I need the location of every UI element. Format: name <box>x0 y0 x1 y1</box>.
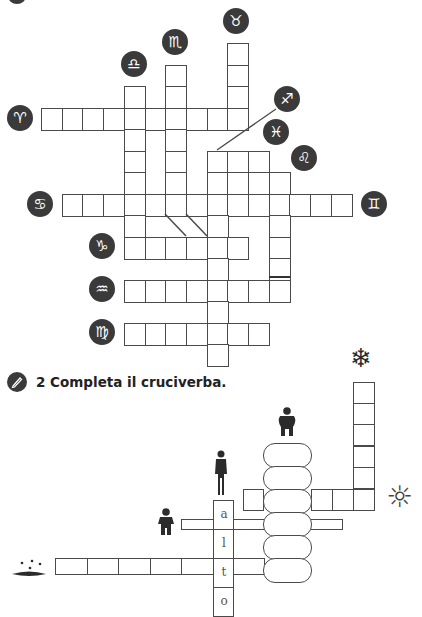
cw2-thin-cell[interactable] <box>233 519 265 530</box>
snowflake-icon: ❄ <box>350 345 372 371</box>
cw2-round-cell[interactable] <box>263 512 312 537</box>
cw2-letter: o <box>214 594 234 608</box>
thick-divider <box>269 276 290 278</box>
cw2-letter: l <box>214 536 234 550</box>
cw2-cell[interactable] <box>233 558 265 575</box>
cw2-cell[interactable] <box>243 489 264 511</box>
cw2-cell[interactable] <box>353 382 375 404</box>
cw2-cell[interactable] <box>353 446 375 468</box>
cw2-round-cell[interactable] <box>263 489 312 514</box>
cw2-letter: t <box>214 565 234 579</box>
cw2-cell[interactable] <box>353 424 375 446</box>
cw2-cell[interactable] <box>181 558 214 575</box>
cw2-cell[interactable] <box>332 489 354 511</box>
pencil-icon <box>7 372 27 392</box>
cw2-cell[interactable] <box>87 558 119 575</box>
cw2-cell[interactable] <box>353 467 375 489</box>
exercise2-heading: 2 Completa il cruciverba. <box>36 374 226 390</box>
cw2-cell[interactable] <box>150 558 182 575</box>
cw2-cell[interactable] <box>353 489 375 511</box>
fat-person-icon <box>277 407 297 441</box>
cw2-thin-cell[interactable] <box>181 519 215 530</box>
tall-person-icon <box>213 450 229 500</box>
cw2-round-cell[interactable] <box>263 535 312 560</box>
cw2-round-cell[interactable] <box>263 443 312 468</box>
cw2-cell[interactable] <box>55 558 88 575</box>
cw2-cell[interactable] <box>353 403 375 425</box>
cw2-round-cell[interactable] <box>263 558 312 583</box>
cw2-round-cell[interactable] <box>263 466 312 491</box>
rain-icon <box>10 555 48 585</box>
short-person-icon <box>156 508 176 540</box>
sun-icon: ☼ <box>386 482 413 512</box>
cw2-cell[interactable] <box>311 489 333 511</box>
cw2-letter: a <box>214 507 234 521</box>
cw2-thin-cell[interactable] <box>310 519 343 530</box>
cw2-cell[interactable] <box>118 558 151 575</box>
